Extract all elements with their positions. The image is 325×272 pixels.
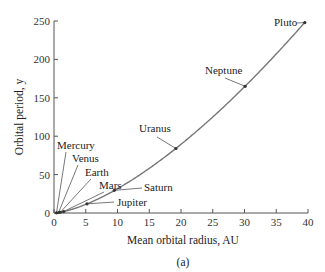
leader-line — [225, 78, 245, 86]
y-tick-label: 0 — [45, 207, 51, 219]
planet-label-mercury: Mercury — [57, 139, 95, 151]
x-tick-label: 30 — [239, 216, 251, 228]
y-axis-title: Orbital period, y — [13, 79, 26, 156]
planet-label-venus: Venus — [72, 152, 99, 164]
x-tick-label: 40 — [303, 216, 315, 228]
data-point-mars — [62, 210, 65, 213]
planet-labels: MercuryVenusEarthMarsJupiterSaturnUranus… — [57, 16, 298, 208]
y-tick-label: 100 — [34, 130, 51, 142]
label-leader-lines — [56, 23, 304, 213]
y-tick-label: 250 — [34, 15, 51, 27]
x-axis: 0510152025303540 — [51, 209, 314, 228]
planet-label-pluto: Pluto — [274, 16, 298, 28]
x-tick-label: 25 — [207, 216, 219, 228]
data-point-earth — [59, 211, 62, 214]
data-points — [55, 21, 307, 214]
planet-label-jupiter: Jupiter — [117, 196, 147, 208]
planet-label-neptune: Neptune — [205, 64, 242, 76]
x-tick-label: 10 — [112, 216, 124, 228]
y-tick-label: 200 — [34, 53, 51, 65]
figure-caption: (a) — [177, 256, 190, 269]
x-tick-label: 35 — [271, 216, 283, 228]
x-tick-label: 15 — [144, 216, 156, 228]
data-point-pluto — [303, 21, 306, 24]
planet-label-earth: Earth — [85, 166, 109, 178]
kepler-curve — [54, 22, 305, 213]
y-axis: 050100150200250 — [34, 15, 59, 219]
x-tick-label: 0 — [51, 216, 57, 228]
x-tick-label: 20 — [176, 216, 188, 228]
planet-label-uranus: Uranus — [139, 122, 171, 134]
y-tick-label: 50 — [39, 169, 51, 181]
x-tick-label: 5 — [83, 216, 89, 228]
y-tick-label: 150 — [34, 92, 51, 104]
planet-label-saturn: Saturn — [144, 181, 173, 193]
leader-line — [56, 152, 66, 213]
x-axis-title: Mean orbital radius, AU — [127, 234, 239, 247]
leader-line — [59, 165, 78, 213]
data-point-jupiter — [85, 202, 88, 205]
orbital-period-chart: 050100150200250 0510152025303540 Mercury… — [0, 0, 325, 272]
data-point-uranus — [174, 147, 177, 150]
leader-line — [60, 179, 91, 212]
leader-line — [157, 137, 176, 148]
data-point-neptune — [244, 85, 247, 88]
planet-label-mars: Mars — [99, 179, 122, 191]
